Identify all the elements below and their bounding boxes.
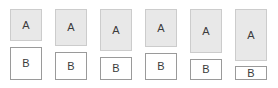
box-b-label: B	[67, 61, 75, 72]
box-a-label: A	[157, 23, 165, 34]
box-a: A	[145, 9, 177, 47]
box-a: A	[10, 9, 42, 41]
box-b-label: B	[247, 68, 255, 79]
box-b: B	[55, 52, 87, 80]
box-b: B	[190, 59, 222, 80]
box-a-label: A	[202, 26, 210, 37]
box-a-label: A	[67, 22, 75, 33]
box-b: B	[10, 47, 42, 80]
box-b-label: B	[202, 64, 210, 75]
box-a: A	[100, 9, 132, 51]
box-a: A	[190, 9, 222, 53]
box-a-label: A	[247, 30, 255, 41]
box-a: A	[235, 9, 267, 61]
box-b-label: B	[22, 58, 30, 69]
box-a: A	[55, 9, 87, 46]
box-b: B	[235, 66, 267, 80]
box-b: B	[145, 53, 177, 80]
box-a-label: A	[22, 20, 30, 31]
box-b-label: B	[157, 61, 165, 72]
box-layout-figure: A B A B A B A B A B	[0, 0, 278, 88]
box-b-label: B	[112, 63, 120, 74]
box-a-label: A	[112, 25, 120, 36]
box-b: B	[100, 57, 132, 80]
